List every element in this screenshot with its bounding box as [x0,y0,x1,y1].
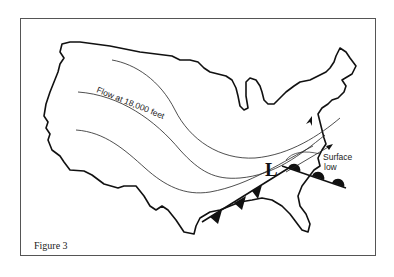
surface-low-label: Surface [323,152,353,162]
cold-front [202,166,292,222]
surface-low-label-2: low [324,162,338,172]
flow-arrowhead [306,116,312,126]
arrowhead [326,144,333,150]
figure-caption: Figure 3 [34,240,68,251]
flow-label: Flow at 18,000 feet [95,85,166,122]
us-outline [44,42,356,234]
flow-line-1 [78,92,325,178]
surface-low-pointer [286,152,320,160]
weather-map: Flow at 18,000 feet L Surface low [0,0,394,277]
low-pressure-symbol: L [265,159,278,180]
